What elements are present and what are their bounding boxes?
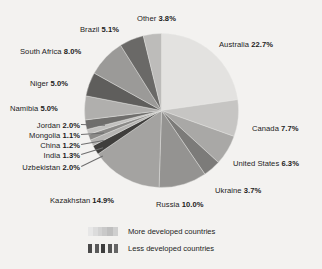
slice-label-china: China 1.2% — [16, 141, 80, 150]
legend-item-more-developed: More developed countries — [88, 225, 268, 238]
legend-swatch-less-developed — [88, 244, 118, 253]
slice-label-australia: Australia 22.7% — [219, 40, 273, 49]
slice-label-uzbekistan: Uzbekistan 2.0% — [12, 163, 80, 172]
chart-root: Australia 22.7% Canada 7.7% United State… — [0, 0, 322, 269]
slice-label-niger: Niger 5.0% — [30, 79, 68, 88]
pie-svg — [84, 33, 239, 188]
slice-label-russia: Russia 10.0% — [156, 200, 203, 209]
legend-label-more-developed: More developed countries — [128, 227, 215, 236]
slice-label-brazil: Brazil 5.1% — [80, 25, 119, 34]
pie-chart — [84, 33, 239, 188]
slice-label-south-africa: South Africa 8.0% — [20, 47, 81, 56]
slice-label-ukraine: Ukraine 3.7% — [215, 186, 261, 195]
slice-label-united-states: United States 6.3% — [233, 159, 299, 168]
slice-label-jordan: Jordan 2.0% — [14, 121, 80, 130]
slice-label-mongolia: Mongolia 1.1% — [8, 131, 80, 140]
slice-label-namibia: Namibia 5.0% — [10, 104, 58, 113]
chart-legend: More developed countries Less developed … — [88, 225, 268, 259]
legend-label-less-developed: Less developed countries — [128, 244, 214, 253]
pie-slices — [85, 34, 239, 188]
slice-label-other: Other 3.8% — [137, 14, 176, 23]
slice-label-india: India 1.3% — [20, 151, 80, 160]
legend-item-less-developed: Less developed countries — [88, 242, 268, 255]
slice-label-canada: Canada 7.7% — [252, 124, 299, 133]
legend-swatch-more-developed — [88, 227, 118, 236]
slice-label-kazakhstan: Kazakhstan 14.9% — [50, 196, 114, 205]
